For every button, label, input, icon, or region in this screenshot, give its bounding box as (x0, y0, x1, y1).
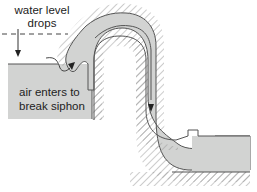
outlet-water (192, 136, 250, 172)
water-level-label-line1: water level (14, 4, 70, 17)
air-label-line2: break siphon (19, 100, 85, 113)
outlet-floor-hatch (130, 172, 250, 186)
air-label-line1: air enters to (19, 86, 80, 99)
siphon-inner-arch (94, 36, 178, 150)
siphon-diagram: water level drops air enters to break si… (0, 0, 257, 192)
water-level-label-line2: drops (14, 17, 70, 30)
water-level-down-arrow-icon (15, 50, 21, 57)
